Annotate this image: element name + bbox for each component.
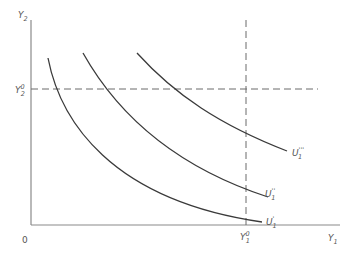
curve-u1-double-prime	[83, 53, 268, 197]
u1-triple-prime-label: U'''1	[292, 146, 304, 161]
u1-double-prime-label: U''1	[265, 187, 275, 202]
curve-u1-prime	[48, 58, 262, 222]
curve-u1-triple-prime	[137, 53, 287, 151]
indifference-curve-diagram: Y2 Y1 0 Y02 Y01 U'1 U''1 U'''1	[0, 0, 354, 256]
y1-0-label: Y01	[240, 230, 250, 245]
u1-prime-label: U'1	[266, 215, 277, 230]
x-axis-label: Y1	[328, 233, 338, 246]
origin-label: 0	[22, 235, 28, 245]
y-axis-label: Y2	[18, 10, 28, 23]
y2-0-label: Y02	[15, 83, 25, 98]
